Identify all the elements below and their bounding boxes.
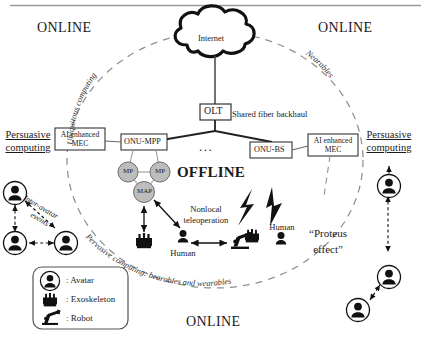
figure-canvas: Ubiquitous computing Nearables Pervasive… [0, 0, 431, 351]
mesh-node-mp-1-label: MP [121, 168, 135, 175]
persuasive-left-line1: Persuasive [2, 129, 54, 142]
human-icon-center [178, 230, 188, 243]
label-online-top-left: ONLINE [37, 21, 92, 36]
label-online-top-right: ONLINE [318, 21, 373, 36]
avatar-icon-2 [4, 232, 27, 255]
avatar-icon-5 [378, 266, 401, 289]
mec-right-dashed-extension [324, 156, 330, 196]
internet-cloud-shape [175, 6, 254, 57]
persuasive-right-line1: Persuasive [361, 129, 417, 142]
proteus-line2: effect” [296, 243, 360, 257]
persuasive-right-line2: computing [361, 142, 417, 155]
legend-label-exoskeleton: : Exoskeleton [66, 295, 115, 304]
nonlocal-line1: Nonlocal [173, 205, 239, 215]
fiber-right-branch [215, 131, 272, 142]
mec-left-line2: MEC [57, 140, 103, 149]
label-online-bottom: ONLINE [186, 315, 241, 330]
human-center-label: Human [163, 249, 203, 259]
avatar-icon-4 [378, 175, 401, 198]
legend-label-robot: : Robot [66, 314, 93, 323]
persuasive-left-line2: computing [2, 142, 54, 155]
mesh-node-mp-2-label: MP [153, 168, 167, 175]
internet-cloud-label: Internet [198, 35, 224, 44]
ellipsis-label: ... [199, 140, 213, 154]
legend-label-avatar: : Avatar [66, 276, 94, 285]
onu-mpp-label: ONU-MPP [124, 138, 161, 147]
olt-label: OLT [204, 106, 223, 117]
wireless-bolt-right-icon [266, 187, 282, 226]
exoskeleton-icon-main [136, 233, 152, 248]
proteus-line1: “Proteus [296, 227, 360, 241]
onu-bs-label: ONU-BS [254, 146, 284, 155]
avatar-icon-legend [40, 271, 59, 290]
avatar-icon-6 [347, 299, 370, 322]
human-icon-right [276, 232, 286, 245]
mec-right-line2: MEC [310, 146, 356, 155]
avatar-icon-3 [55, 232, 78, 255]
nonlocal-line2: teleoperation [167, 216, 245, 226]
arc-label-nearables: Nearables [303, 48, 335, 80]
mesh-node-map-label: MAP [135, 188, 154, 195]
shared-fiber-backhaul-label: Shared fiber backhaul [232, 110, 294, 120]
label-offline: OFFLINE [177, 165, 245, 181]
